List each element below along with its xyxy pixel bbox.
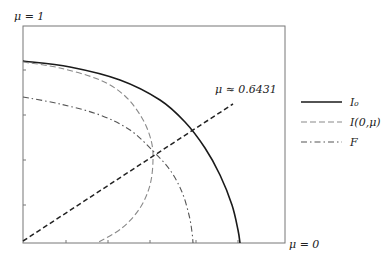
series-line-2 <box>23 97 193 243</box>
series-line-3 <box>23 104 233 241</box>
series-line-0 <box>23 61 240 243</box>
legend-label: I(0,μ) <box>349 116 381 129</box>
legend-label: I₀ <box>349 96 359 109</box>
legend: I₀I(0,μ)F <box>301 96 381 149</box>
chart: μ = 1 μ = 0 μ ≈ 0.6431 I₀I(0,μ)F <box>0 0 392 266</box>
annotation-mu-value: μ ≈ 0.6431 <box>215 83 277 96</box>
label-mu-0: μ = 0 <box>289 238 319 251</box>
legend-label: F <box>349 136 358 149</box>
axis-ticks <box>23 70 238 243</box>
series-line-1 <box>23 62 153 243</box>
plot-frame <box>23 26 285 243</box>
series-group <box>23 61 240 243</box>
label-mu-1: μ = 1 <box>14 10 44 23</box>
